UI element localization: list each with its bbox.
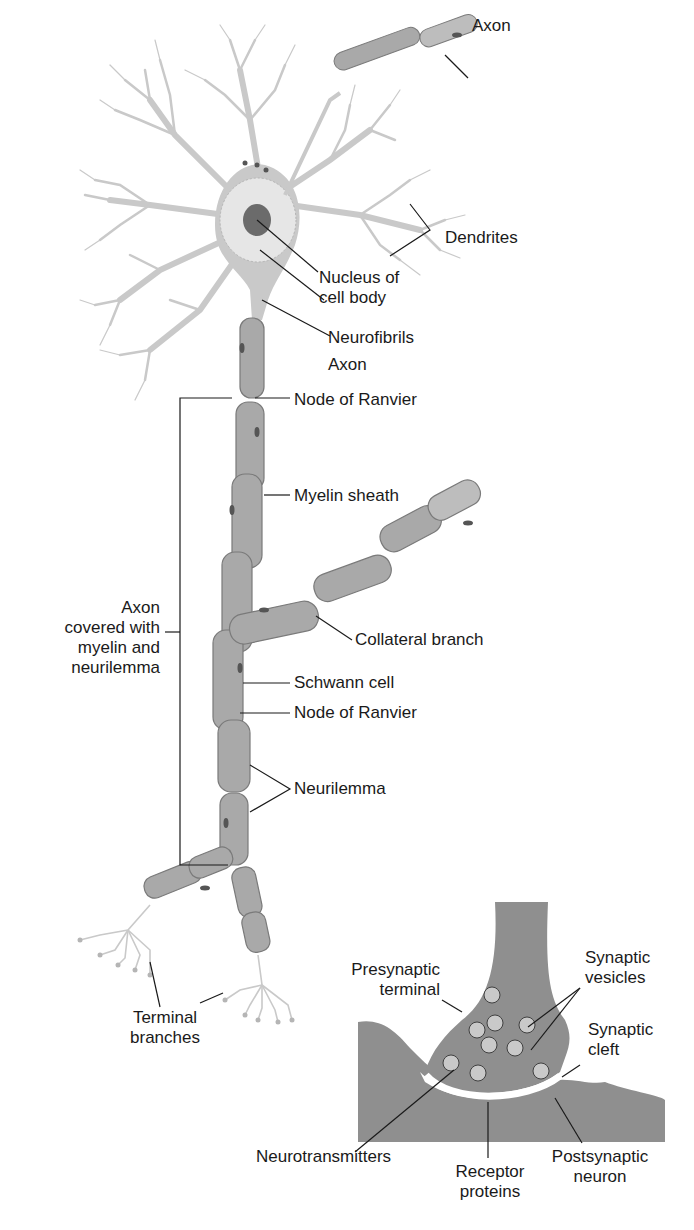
- label-receptor-proteins: Receptor proteins: [440, 1162, 540, 1202]
- label-terminal-line2: branches: [115, 1028, 215, 1048]
- label-axon-covered: Axon covered with myelin and neurilemma: [40, 598, 160, 678]
- label-axon-covered-line2: covered with: [40, 618, 160, 638]
- label-neurofibrils: Neurofibrils: [328, 328, 414, 348]
- label-axon-covered-line1: Axon: [40, 598, 160, 618]
- label-receptor-line2: proteins: [440, 1182, 540, 1202]
- label-postsynaptic-line2: neuron: [540, 1167, 660, 1187]
- label-dendrites: Dendrites: [445, 228, 518, 248]
- label-nucleus-line2: cell body: [319, 288, 399, 308]
- label-presynaptic-line2: terminal: [320, 980, 440, 1000]
- label-nucleus-line1: Nucleus of: [319, 268, 399, 288]
- label-cleft-line2: cleft: [588, 1040, 653, 1060]
- label-neurilemma: Neurilemma: [294, 779, 386, 799]
- label-axon-covered-line4: neurilemma: [40, 658, 160, 678]
- label-axon-mid: Axon: [328, 355, 367, 375]
- label-myelin-sheath: Myelin sheath: [294, 486, 399, 506]
- label-axon-covered-line3: myelin and: [40, 638, 160, 658]
- label-receptor-line1: Receptor: [440, 1162, 540, 1182]
- label-terminal-line1: Terminal: [115, 1008, 215, 1028]
- label-cleft-line1: Synaptic: [588, 1020, 653, 1040]
- label-node-of-ranvier-1: Node of Ranvier: [294, 390, 417, 410]
- label-postsynaptic-line1: Postsynaptic: [540, 1147, 660, 1167]
- label-presynaptic-terminal: Presynaptic terminal: [320, 960, 440, 1000]
- label-collateral-branch: Collateral branch: [355, 630, 484, 650]
- label-node-of-ranvier-2: Node of Ranvier: [294, 703, 417, 723]
- label-postsynaptic-neuron: Postsynaptic neuron: [540, 1147, 660, 1187]
- label-vesicles-line1: Synaptic: [585, 948, 650, 968]
- cell-body-illustration: [215, 161, 300, 321]
- label-synaptic-vesicles: Synaptic vesicles: [585, 948, 650, 988]
- label-synaptic-cleft: Synaptic cleft: [588, 1020, 653, 1060]
- label-nucleus: Nucleus of cell body: [319, 268, 399, 308]
- label-neurotransmitters: Neurotransmitters: [256, 1147, 391, 1167]
- label-schwann-cell: Schwann cell: [294, 673, 394, 693]
- label-vesicles-line2: vesicles: [585, 968, 650, 988]
- label-terminal-branches: Terminal branches: [115, 1008, 215, 1048]
- label-presynaptic-line1: Presynaptic: [320, 960, 440, 980]
- label-axon-top: Axon: [472, 16, 511, 36]
